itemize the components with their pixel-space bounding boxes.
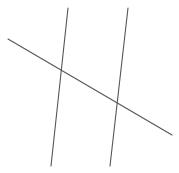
transversal-line (8, 39, 172, 135)
left-line (51, 8, 68, 166)
right-line (110, 8, 128, 166)
parallel-lines-transversal-diagram (0, 0, 179, 173)
